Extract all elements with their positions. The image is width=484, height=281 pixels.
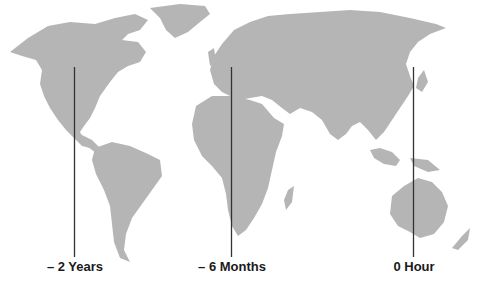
madagascar	[284, 186, 294, 210]
new-guinea	[410, 158, 440, 172]
south-america	[92, 142, 162, 262]
north-america	[10, 14, 148, 148]
africa	[192, 96, 284, 236]
australia	[390, 178, 448, 238]
world-map	[0, 0, 484, 281]
marker-label-6-months: – 6 Months	[198, 259, 266, 274]
indonesia	[370, 148, 400, 166]
marker-label-0-hour: 0 Hour	[393, 259, 434, 274]
marker-label-2-years: – 2 Years	[47, 259, 103, 274]
new-zealand	[452, 228, 470, 250]
world-map-timeline: – 2 Years – 6 Months 0 Hour	[0, 0, 484, 281]
greenland	[150, 4, 210, 38]
japan	[416, 70, 428, 92]
